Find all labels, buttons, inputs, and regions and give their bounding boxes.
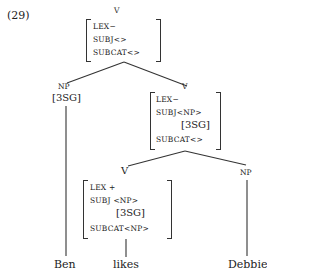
verb-subj-agreement: [3SG] bbox=[116, 207, 145, 218]
feature-value: <NP> bbox=[177, 108, 202, 117]
root-category: V bbox=[114, 6, 119, 15]
feature-value: + bbox=[109, 183, 115, 192]
branch-root-subject bbox=[67, 62, 124, 83]
feature-value: <> bbox=[190, 135, 203, 144]
feature-value: − bbox=[109, 22, 115, 31]
vp-lex: LEX− bbox=[156, 95, 179, 104]
subject-np-agreement: [3SG] bbox=[52, 92, 81, 103]
branch-vp-object bbox=[185, 151, 246, 165]
feature-value: <> bbox=[114, 35, 127, 44]
vp-subj-agreement: [3SG] bbox=[181, 119, 210, 130]
feature-attr: LEX bbox=[90, 183, 106, 192]
feature-attr: SUBJ bbox=[93, 35, 114, 44]
vp-category: V bbox=[182, 82, 187, 91]
root-avm: LEX− SUBJ<> SUBCAT<> bbox=[86, 19, 161, 62]
feature-value: − bbox=[172, 95, 178, 104]
vp-subcat: SUBCAT<> bbox=[156, 135, 203, 144]
verb-lex: LEX + bbox=[90, 183, 115, 192]
verb-subj: SUBJ <NP> bbox=[90, 196, 138, 205]
root-subcat: SUBCAT<> bbox=[93, 48, 140, 57]
feature-attr: SUBCAT bbox=[156, 135, 190, 144]
word-debbie: Debbie bbox=[228, 258, 267, 271]
branch-vp-verb bbox=[128, 151, 185, 166]
verb-category: V bbox=[121, 165, 128, 176]
feature-value: <> bbox=[127, 48, 140, 57]
verb-subcat: SUBCAT<NP> bbox=[90, 224, 149, 233]
feature-value: <NP> bbox=[113, 196, 138, 205]
root-subj: SUBJ<> bbox=[93, 35, 127, 44]
branch-root-vp bbox=[124, 62, 187, 86]
object-np-category: NP bbox=[240, 168, 252, 177]
vp-subj: SUBJ<NP> bbox=[156, 108, 202, 117]
feature-attr: SUBCAT bbox=[93, 48, 127, 57]
vp-avm: LEX− SUBJ<NP> [3SG] SUBCAT<> bbox=[150, 92, 221, 150]
feature-attr: SUBJ bbox=[156, 108, 177, 117]
word-likes: likes bbox=[113, 258, 139, 271]
feature-attr: LEX bbox=[93, 22, 109, 31]
word-ben: Ben bbox=[54, 258, 76, 271]
feature-attr: SUBCAT bbox=[90, 224, 124, 233]
feature-value: <NP> bbox=[124, 224, 149, 233]
feature-attr: LEX bbox=[156, 95, 172, 104]
verb-avm: LEX + SUBJ <NP> [3SG] SUBCAT<NP> bbox=[83, 180, 172, 239]
subject-np-category: NP bbox=[58, 82, 70, 91]
root-lex: LEX− bbox=[93, 22, 116, 31]
feature-attr: SUBJ bbox=[90, 196, 111, 205]
